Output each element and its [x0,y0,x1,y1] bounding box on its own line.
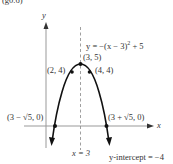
curve-left-arrow-icon [49,137,55,146]
header-partial-text: (g0.6) [2,0,23,5]
axis-of-symmetry-label: x = 3 [72,149,90,158]
vertex-point [79,62,83,66]
root-right-point [105,124,109,128]
y-axis-arrow-icon [44,22,49,29]
equation-label: y = −(x − 3)2 + 5 [86,40,144,50]
equation-suffix: + 5 [130,41,143,51]
root-left-point [53,124,57,128]
curve-right-arrow-icon [106,137,112,146]
parabola-diagram [0,0,173,164]
vertex-label: (3, 5) [83,53,101,62]
y-axis-label: y [42,11,46,20]
x-axis-arrow-icon [147,124,154,129]
point-2-4 [70,70,74,74]
parabola-curve [52,64,109,142]
root-right-label: (3 + √5, 0) [108,113,144,122]
x-axis-label: x [157,121,161,130]
point-left-label: (2, 4) [47,66,65,75]
point-4-4 [88,70,92,74]
equation-prefix: y = −(x − 3) [86,41,127,51]
y-intercept-label: y-intercept = −4 [109,153,164,162]
root-left-label: (3 − √5, 0) [7,113,43,122]
point-right-label: (4, 4) [95,66,113,75]
